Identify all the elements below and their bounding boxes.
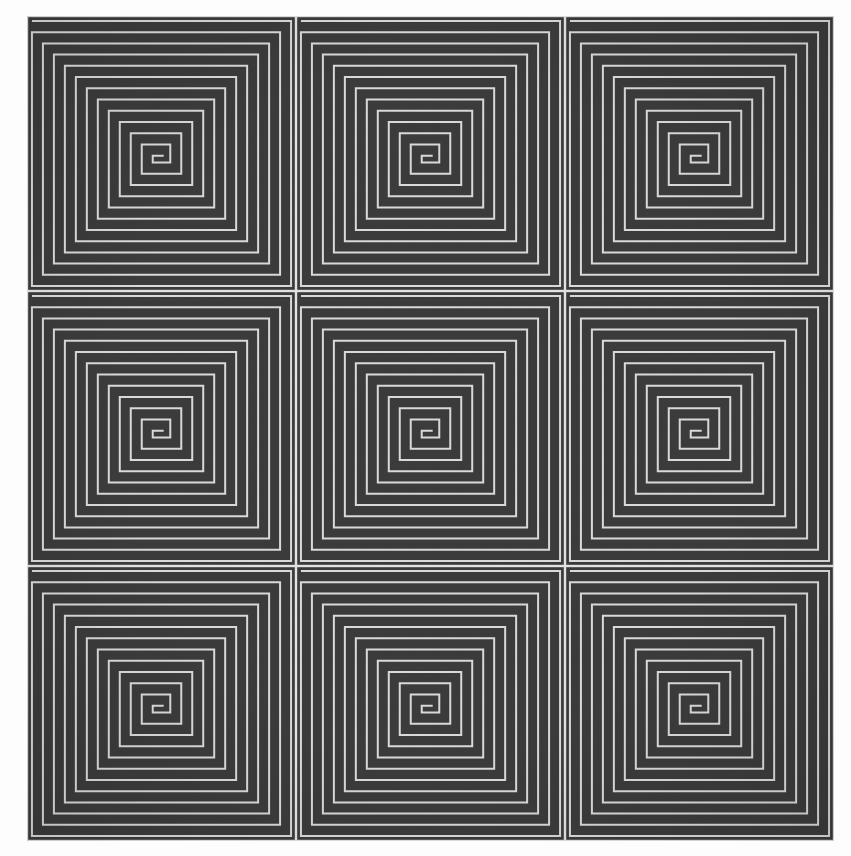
spiral-tile-r3c2 — [296, 566, 565, 841]
square-spiral-graphic — [565, 291, 834, 566]
square-spiral-graphic — [565, 16, 834, 291]
square-spiral-graphic — [27, 16, 296, 291]
spiral-tiling-artwork — [27, 16, 834, 841]
page-canvas — [0, 0, 851, 856]
spiral-tile-r1c3 — [565, 16, 834, 291]
square-spiral-graphic — [27, 291, 296, 566]
square-spiral-graphic — [565, 566, 834, 841]
spiral-tile-r1c1 — [27, 16, 296, 291]
spiral-tile-r1c2 — [296, 16, 565, 291]
square-spiral-graphic — [296, 16, 565, 291]
spiral-tile-r2c1 — [27, 291, 296, 566]
spiral-tile-r2c3 — [565, 291, 834, 566]
square-spiral-graphic — [27, 566, 296, 841]
square-spiral-graphic — [296, 566, 565, 841]
spiral-tile-r2c2 — [296, 291, 565, 566]
spiral-tile-r3c1 — [27, 566, 296, 841]
spiral-tile-r3c3 — [565, 566, 834, 841]
square-spiral-graphic — [296, 291, 565, 566]
